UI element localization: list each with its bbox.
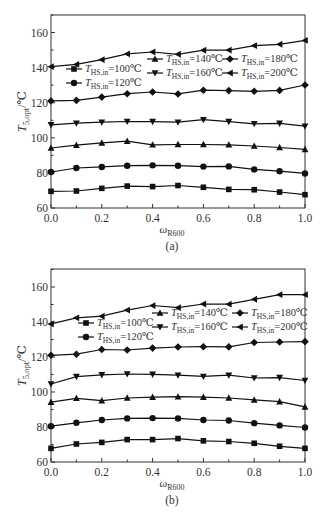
x-axis-label: ωR600 (160, 223, 185, 238)
circle-marker-icon (175, 415, 181, 421)
diamond-marker-icon (47, 351, 55, 359)
square-marker-icon (71, 66, 77, 72)
triangle-up-marker-icon (73, 395, 80, 401)
diamond-marker-icon (276, 87, 284, 95)
triangle-down-marker-icon (302, 123, 309, 129)
chart-panel-b: 60801001201401600.00.20.40.60.81.0ωR600T… (15, 269, 312, 507)
square-marker-icon (226, 439, 232, 445)
square-marker-icon (277, 443, 283, 449)
circle-marker-icon (48, 169, 54, 175)
diamond-marker-icon (149, 344, 157, 352)
square-marker-icon (201, 438, 207, 444)
triangle-left-marker-icon (124, 51, 130, 58)
circle-marker-icon (149, 162, 155, 168)
y-tick-label: 100 (31, 386, 49, 398)
circle-marker-icon (226, 163, 232, 169)
circle-marker-icon (175, 163, 181, 169)
x-axis: 0.00.20.40.60.81.0 (44, 204, 313, 224)
y-axis-label-group: T5,opt/℃ (15, 345, 31, 386)
circle-marker-icon (200, 417, 206, 423)
square-marker-icon (302, 192, 308, 198)
legend-label: THS,in=120℃ (97, 331, 154, 345)
diamond-marker-icon (236, 309, 244, 317)
panel-caption: (b) (165, 494, 179, 507)
legend-item: THS,in=200℃ (232, 321, 308, 335)
circle-marker-icon (251, 420, 257, 426)
legend-label: THS,in=180℃ (241, 53, 298, 67)
x-tick-label: 0.4 (145, 466, 160, 478)
panel-caption: (a) (166, 240, 179, 253)
legend-label: THS,in=160℃ (171, 321, 228, 335)
circle-marker-icon (302, 424, 308, 430)
circle-marker-icon (71, 80, 77, 86)
diamond-marker-icon (200, 343, 208, 351)
y-tick-label: 80 (37, 167, 49, 179)
diamond-marker-icon (98, 93, 106, 101)
square-marker-icon (150, 184, 156, 190)
x-tick-label: 0.0 (44, 466, 59, 478)
square-marker-icon (48, 189, 54, 195)
circle-marker-icon (251, 166, 257, 172)
x-tick-label: 0.8 (247, 212, 262, 224)
legend-item: THS,in=180℃ (232, 307, 308, 321)
square-marker-icon (277, 189, 283, 195)
square-marker-icon (74, 441, 80, 447)
square-marker-icon (201, 184, 207, 190)
triangle-left-marker-icon (226, 70, 232, 77)
diamond-marker-icon (174, 90, 182, 98)
series-160C (48, 371, 309, 387)
legend-label: THS,in=180℃ (251, 307, 308, 321)
series-180C (47, 338, 309, 359)
square-marker-icon (150, 437, 156, 443)
x-tick-label: 0.8 (247, 466, 262, 478)
legend-label: THS,in=200℃ (241, 67, 298, 81)
legend-label: THS,in=100℃ (85, 63, 142, 77)
y-axis-label-group: T5,opt/℃ (15, 91, 31, 132)
square-marker-icon (251, 440, 257, 446)
square-marker-icon (302, 446, 308, 452)
triangle-left-marker-icon (149, 49, 155, 56)
square-marker-icon (74, 188, 80, 194)
legend-item: THS,in=120℃ (66, 77, 142, 91)
legend-label: THS,in=140℃ (166, 53, 223, 67)
x-tick-label: 0.6 (196, 466, 211, 478)
circle-marker-icon (83, 334, 89, 340)
legend-item: THS,in=120℃ (78, 331, 154, 345)
square-marker-icon (124, 437, 130, 443)
x-axis-label: ωR600 (160, 477, 185, 492)
legend-label: THS,in=200℃ (251, 321, 308, 335)
circle-marker-icon (124, 415, 130, 421)
figure-canvas: 60801001201401600.00.20.40.60.81.0ωR600T… (0, 0, 322, 515)
square-marker-icon (83, 320, 89, 326)
triangle-left-marker-icon (98, 56, 104, 63)
circle-marker-icon (302, 170, 308, 176)
diamond-marker-icon (226, 55, 234, 63)
circle-marker-icon (149, 415, 155, 421)
diamond-marker-icon (250, 339, 258, 347)
diamond-marker-icon (98, 346, 106, 354)
square-marker-icon (99, 186, 105, 192)
triangle-left-marker-icon (276, 291, 282, 298)
y-tick-label: 120 (31, 97, 49, 109)
circle-marker-icon (99, 417, 105, 423)
legend-label: THS,in=120℃ (85, 77, 142, 91)
square-marker-icon (175, 183, 181, 189)
legend-label: THS,in=100℃ (97, 317, 154, 331)
diamond-marker-icon (301, 338, 309, 346)
series-140C (48, 393, 309, 410)
plot-frame (51, 269, 305, 462)
diamond-marker-icon (250, 87, 258, 95)
series-160C (48, 117, 309, 130)
diamond-marker-icon (149, 88, 157, 96)
chart-panel-a: 60801001201401600.00.20.40.60.81.0ωR600T… (15, 15, 312, 253)
x-tick-label: 1.0 (298, 212, 313, 224)
y-tick-label: 80 (37, 421, 49, 433)
y-tick-label: 140 (31, 316, 49, 328)
legend-item: THS,in=100℃ (78, 317, 154, 331)
triangle-down-marker-icon (302, 378, 309, 384)
legend-label: THS,in=160℃ (166, 67, 223, 81)
plot-frame (51, 15, 305, 208)
y-tick-label: 120 (31, 351, 49, 363)
x-tick-label: 0.6 (196, 212, 211, 224)
y-tick-label: 100 (31, 132, 49, 144)
